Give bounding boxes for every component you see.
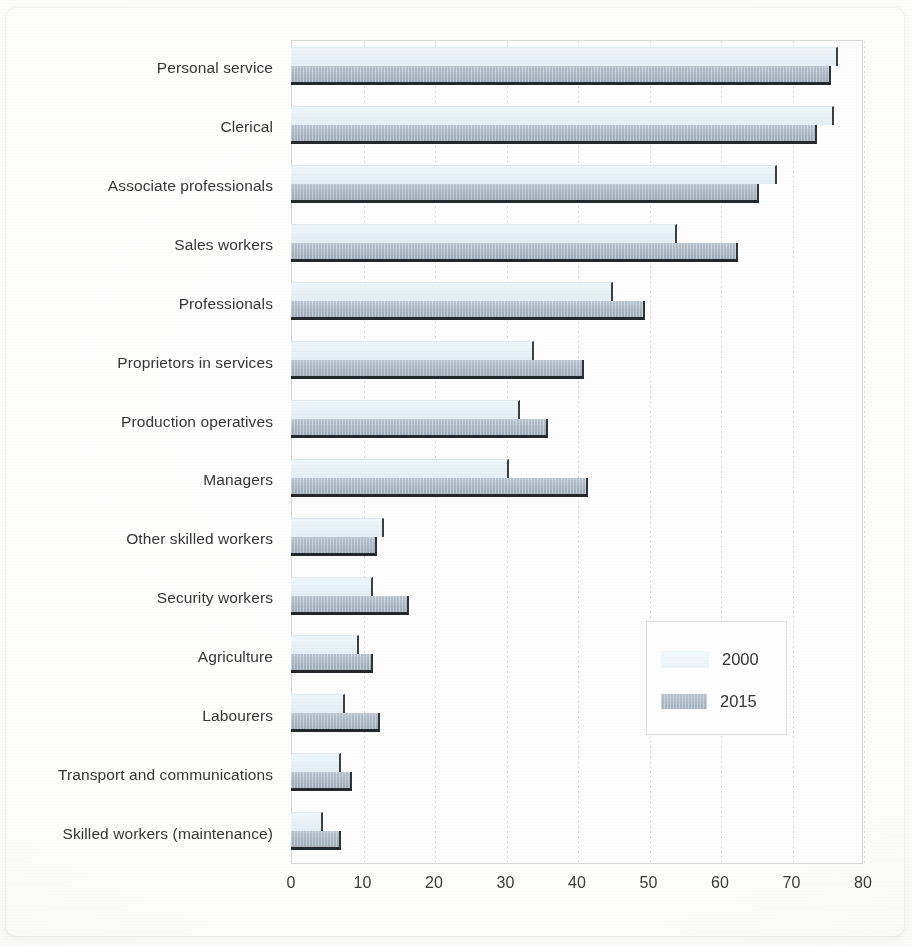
category-label: Managers <box>203 471 273 489</box>
bar-2015 <box>291 831 341 850</box>
bar-group <box>291 805 863 864</box>
category-label: Transport and communications <box>58 766 273 784</box>
bar-2000 <box>291 341 534 360</box>
bar-group <box>291 511 863 570</box>
x-tick-label: 30 <box>497 874 515 892</box>
x-tick-label: 50 <box>640 874 658 892</box>
bar-2015 <box>291 713 380 732</box>
bar-2000 <box>291 635 359 654</box>
category-label: Production operatives <box>121 413 273 431</box>
bar-2015 <box>291 301 645 320</box>
x-tick-label: 70 <box>783 874 801 892</box>
category-label: Clerical <box>221 118 273 136</box>
x-tick-label: 10 <box>354 874 372 892</box>
bar-rows <box>291 40 863 864</box>
category-label: Labourers <box>202 707 273 725</box>
category-label: Proprietors in services <box>117 354 273 372</box>
category-label: Skilled workers (maintenance) <box>62 825 273 843</box>
bar-2015 <box>291 360 584 379</box>
swatch-2000-icon <box>661 651 709 668</box>
bar-group <box>291 746 863 805</box>
category-label: Other skilled workers <box>126 530 273 548</box>
bar-2000 <box>291 518 384 537</box>
bar-2000 <box>291 282 613 301</box>
bar-2000 <box>291 400 520 419</box>
bar-group <box>291 158 863 217</box>
bar-2015 <box>291 537 377 556</box>
category-label: Sales workers <box>174 236 273 254</box>
category-label: Security workers <box>157 589 273 607</box>
bar-2000 <box>291 812 323 831</box>
category-label: Associate professionals <box>108 177 273 195</box>
legend-label-2015: 2015 <box>720 692 757 711</box>
bar-2000 <box>291 694 345 713</box>
bar-2000 <box>291 577 373 596</box>
bar-2000 <box>291 753 341 772</box>
legend-item-2015: 2015 <box>661 690 757 712</box>
bar-2000 <box>291 224 677 243</box>
bar-2015 <box>291 419 548 438</box>
bar-2015 <box>291 66 831 85</box>
bar-group <box>291 452 863 511</box>
bar-group <box>291 393 863 452</box>
bar-group <box>291 99 863 158</box>
bar-group <box>291 40 863 99</box>
value-axis: 01020304050607080 <box>291 864 863 904</box>
category-label: Agriculture <box>198 648 273 666</box>
bar-2015 <box>291 478 588 497</box>
category-label: Professionals <box>179 295 273 313</box>
gridline-80 <box>864 41 865 863</box>
swatch-2015-icon <box>661 694 707 709</box>
x-tick-label: 20 <box>425 874 443 892</box>
bar-group <box>291 275 863 334</box>
category-label: Personal service <box>157 59 273 77</box>
bar-2000 <box>291 165 777 184</box>
bar-2015 <box>291 596 409 615</box>
bar-2000 <box>291 459 509 478</box>
bar-2000 <box>291 47 838 66</box>
x-tick-label: 80 <box>854 874 872 892</box>
bar-2015 <box>291 654 373 673</box>
bar-2015 <box>291 125 817 144</box>
x-tick-label: 60 <box>711 874 729 892</box>
bar-2015 <box>291 184 759 203</box>
legend-item-2000: 2000 <box>661 648 759 670</box>
bar-2015 <box>291 772 352 791</box>
chart-legend: 2000 2015 <box>646 621 787 735</box>
bar-group <box>291 217 863 276</box>
x-tick-label: 40 <box>568 874 586 892</box>
legend-label-2000: 2000 <box>722 650 759 669</box>
bar-group <box>291 570 863 629</box>
bar-2000 <box>291 106 834 125</box>
x-tick-label: 0 <box>287 874 296 892</box>
bar-group <box>291 334 863 393</box>
bar-2015 <box>291 243 738 262</box>
category-axis-labels: Personal serviceClericalAssociate profes… <box>0 40 282 864</box>
